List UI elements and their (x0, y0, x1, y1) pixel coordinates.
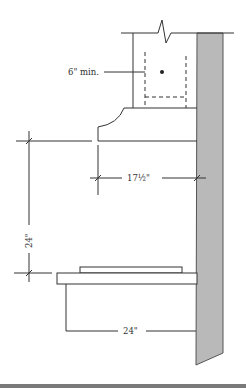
bottom-border-band (0, 384, 246, 388)
range-hood (98, 108, 197, 141)
cooktop-burner-top (80, 267, 182, 273)
flue-min-label: 6" min. (68, 67, 99, 77)
range-depth-label: 24" (123, 326, 138, 336)
wall-section (196, 33, 223, 365)
hood-height-label: 24" (24, 233, 34, 248)
hood-depth-label: 17½" (127, 173, 150, 183)
center-dot (160, 70, 164, 74)
diagram-canvas: 6" min. 24" 17½" 24" (0, 0, 246, 388)
cooktop-range (57, 273, 197, 284)
